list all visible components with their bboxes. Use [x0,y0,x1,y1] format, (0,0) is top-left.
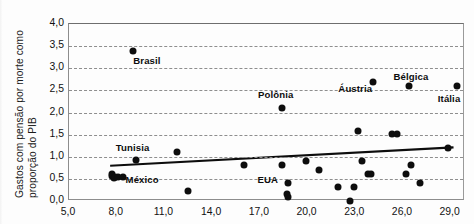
point-label-brasil: Brasil [133,55,160,66]
point-label-bélgica: Bélgica [394,71,429,82]
data-point [368,171,375,178]
x-tick-label: 11,0 [154,206,173,217]
y-tick-label: 0,5 [24,173,64,183]
data-point [403,171,410,178]
y-tick-label: 1,0 [24,151,64,161]
point-label-méxico: México [126,173,159,184]
gridline [69,46,463,47]
x-tick-label: 17,0 [249,206,269,217]
x-tick-label: 26,0 [392,206,412,217]
x-tick-label: 23,0 [344,206,364,217]
data-point [174,148,181,155]
data-point [350,183,357,190]
y-tick-label: 4,0 [24,18,64,28]
point-label-itália: Itália [438,92,460,103]
data-point [417,180,424,187]
data-point-bélgica [406,82,413,89]
data-point [185,188,192,195]
y-tick-label: 2,5 [24,84,64,94]
data-point-itália [454,82,461,89]
data-point-polônia [279,105,286,112]
data-point [407,162,414,169]
point-label-polônia: Polônia [258,88,293,99]
data-point [279,162,286,169]
y-tick-label: 3,0 [24,62,64,72]
data-point [285,194,292,201]
y-axis-tick-labels: 0,00,51,01,52,02,53,03,54,0 [16,0,64,224]
data-point [393,131,400,138]
data-point [315,167,322,174]
data-point [285,180,292,187]
x-tick-label: 20,0 [296,206,316,217]
x-tick-label: 5,0 [61,206,75,217]
data-point [132,157,139,164]
data-point [334,183,341,190]
gridline [69,113,463,114]
data-point [240,162,247,169]
y-tick-label: 1,5 [24,129,64,139]
x-tick-label: 8,0 [108,206,122,217]
y-tick-label: 3,5 [24,40,64,50]
x-tick-label: 29,0 [440,206,460,217]
point-label-eua: EUA [258,173,279,184]
point-label-áustria: Áustria [338,83,372,94]
plot-area: BrasilPolôniaÁustriaBélgicaItáliaTunisia… [68,23,464,200]
gridline [69,135,463,136]
data-point [355,128,362,135]
gridline [69,157,463,158]
plot-inner: BrasilPolôniaÁustriaBélgicaItáliaTunisia… [69,24,463,199]
data-point [302,157,309,164]
gridline [69,68,463,69]
y-tick-label: 2,0 [24,107,64,117]
data-point [444,144,451,151]
x-axis-tick-labels: 5,08,011,014,017,020,023,026,029,0 [0,203,474,224]
point-label-tunisia: Tunisia [116,142,150,153]
x-tick-label: 14,0 [201,206,221,217]
data-point [358,157,365,164]
scatter-chart-figure: Gastos com pensão por morte como proporç… [0,0,474,224]
